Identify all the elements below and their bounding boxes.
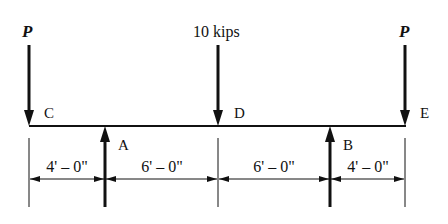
beam-diagram: P 10 kips P C D E A B 4' – 0" 6' – 0" 6'… — [0, 0, 448, 224]
dimension-label-ca: 4' – 0" — [46, 158, 87, 175]
load-arrow-d — [213, 45, 223, 126]
load-label-d: 10 kips — [193, 23, 240, 41]
dimension-label-db: 6' – 0" — [253, 158, 294, 175]
reaction-arrow-a — [100, 126, 110, 207]
point-label-d: D — [234, 105, 245, 121]
reaction-label-b: B — [343, 137, 353, 153]
reaction-label-a: A — [118, 137, 129, 153]
load-label-e: P — [398, 22, 410, 41]
point-label-e: E — [420, 105, 429, 121]
dimension-label-be: 4' – 0" — [347, 158, 388, 175]
load-label-c: P — [21, 22, 33, 41]
dimension-label-ad: 6' – 0" — [141, 158, 182, 175]
reaction-arrow-b — [325, 126, 335, 207]
load-arrow-e — [400, 45, 410, 126]
point-label-c: C — [44, 105, 54, 121]
load-arrow-c — [24, 45, 34, 126]
